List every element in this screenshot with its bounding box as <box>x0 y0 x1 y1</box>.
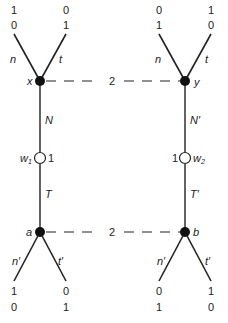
node-b-label: b <box>193 226 199 238</box>
edge-label-y-w2: N′ <box>190 114 201 126</box>
payoff-a-n-1: 1 <box>11 285 17 297</box>
edge-label-x-n: n <box>10 53 16 65</box>
edge-x-t <box>40 34 66 81</box>
payoff-x-n-1: 1 <box>11 4 17 16</box>
node-a <box>35 227 45 237</box>
payoff-b-t-1: 1 <box>208 285 214 297</box>
info-set-label-top: 2 <box>109 75 115 87</box>
edge-label-x-w1: N <box>45 114 53 126</box>
payoff-b-t-2: 0 <box>208 301 214 313</box>
node-w2-label: w2 <box>193 152 205 165</box>
payoff-a-n-2: 0 <box>11 301 17 313</box>
payoff-x-t-1: 0 <box>63 4 69 16</box>
edge-label-w1-a: T <box>45 188 53 200</box>
node-x <box>35 76 45 86</box>
edge-label-b-n: n′ <box>157 255 166 267</box>
node-w1-value: 1 <box>48 152 54 164</box>
edge-label-a-n: n′ <box>12 255 21 267</box>
edge-label-y-n: n <box>155 53 161 65</box>
node-w1 <box>35 153 46 164</box>
edge-label-w2-b: T′ <box>190 188 200 200</box>
payoff-y-n-1: 0 <box>156 4 162 16</box>
edge-label-y-t: t <box>205 53 209 65</box>
payoff-x-t-2: 1 <box>63 19 69 31</box>
edge-label-x-t: t <box>59 53 63 65</box>
node-y <box>180 76 190 86</box>
edge-label-b-t: t′ <box>205 255 211 267</box>
info-set-label-bottom: 2 <box>109 226 115 238</box>
edge-label-a-t: t′ <box>58 255 64 267</box>
node-y-label: y <box>193 76 201 88</box>
node-a-label: a <box>26 226 32 238</box>
node-b <box>180 227 190 237</box>
payoff-b-n-1: 0 <box>156 285 162 297</box>
node-w2 <box>180 153 191 164</box>
game-tree-diagram: 2 2 x y a b w1 1 1 w2 n t n t N T N′ T′ … <box>0 0 228 323</box>
payoff-y-n-2: 1 <box>156 19 162 31</box>
payoff-b-n-2: 1 <box>156 301 162 313</box>
payoff-y-t-2: 0 <box>208 19 214 31</box>
payoff-x-n-2: 0 <box>11 19 17 31</box>
node-w2-value: 1 <box>172 152 178 164</box>
node-x-label: x <box>26 75 33 87</box>
edge-x-n <box>14 34 40 81</box>
payoff-y-t-1: 1 <box>208 4 214 16</box>
edge-y-n <box>159 34 185 81</box>
payoff-a-t-2: 1 <box>63 301 69 313</box>
payoff-a-t-1: 0 <box>63 285 69 297</box>
node-w1-label: w1 <box>20 152 32 165</box>
